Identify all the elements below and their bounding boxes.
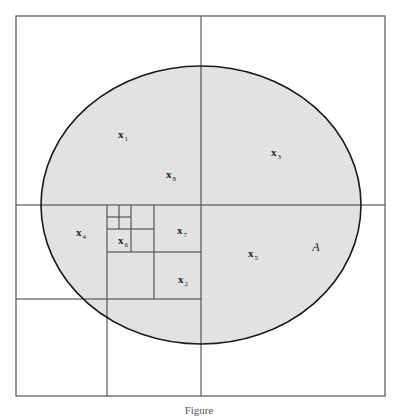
- figure-caption: Figure: [0, 404, 398, 416]
- point-subscript: 8: [173, 175, 177, 183]
- region-label-a: A: [312, 241, 319, 253]
- point-base: x: [177, 224, 183, 236]
- point-label-x7: x7: [177, 225, 187, 236]
- point-base: x: [76, 226, 82, 238]
- point-subscript: 1: [125, 135, 129, 143]
- point-base: x: [178, 273, 184, 285]
- point-label-x4: x4: [76, 227, 86, 238]
- point-subscript: 6: [125, 241, 129, 249]
- point-subscript: 5: [255, 254, 259, 262]
- point-subscript: 4: [83, 233, 87, 241]
- point-label-x2: x2: [178, 274, 188, 285]
- point-base: x: [118, 128, 124, 140]
- point-subscript: 7: [184, 231, 188, 239]
- point-base: x: [118, 234, 124, 246]
- point-label-x6: x6: [118, 235, 128, 246]
- point-subscript: 2: [185, 280, 189, 288]
- point-base: x: [248, 247, 254, 259]
- point-subscript: 3: [278, 153, 282, 161]
- point-label-x5: x5: [248, 248, 258, 259]
- point-label-x8: x8: [166, 169, 176, 180]
- point-label-x1: x1: [118, 129, 128, 140]
- point-base: x: [271, 146, 277, 158]
- point-label-x3: x3: [271, 147, 281, 158]
- point-base: x: [166, 168, 172, 180]
